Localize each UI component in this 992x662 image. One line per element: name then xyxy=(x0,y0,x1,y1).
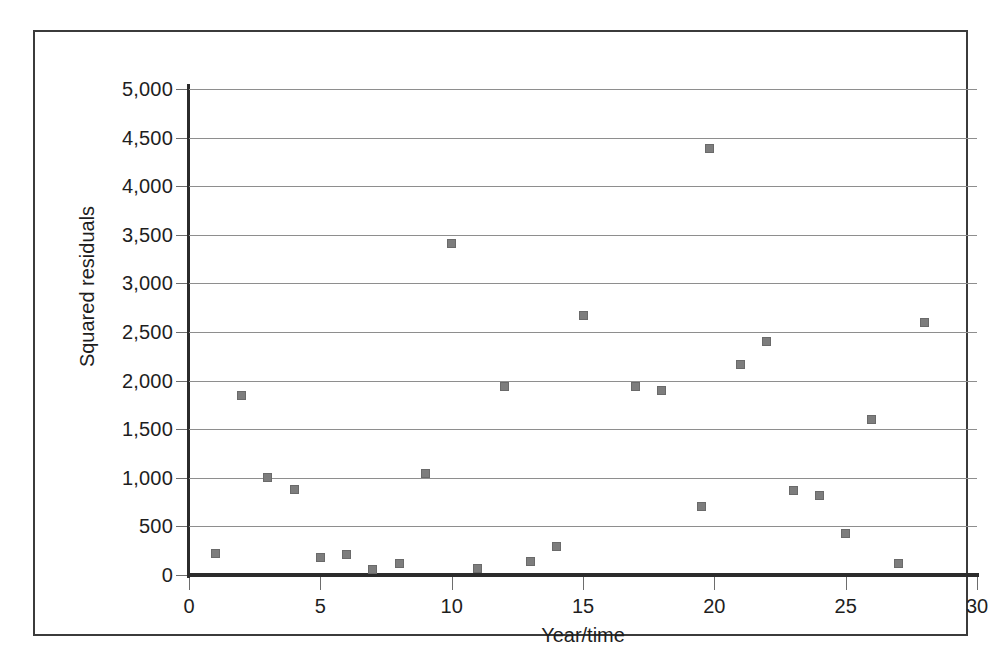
x-axis-tick xyxy=(846,577,847,590)
scatter-point xyxy=(368,565,377,574)
x-axis-tick xyxy=(977,577,978,590)
y-axis-tick-label: 2,000 xyxy=(83,370,173,393)
y-axis-tick-label: 0 xyxy=(83,564,173,587)
y-axis-tick-label: 3,500 xyxy=(83,224,173,247)
x-axis-tick xyxy=(320,577,321,590)
gridline-horizontal xyxy=(189,332,977,333)
scatter-point xyxy=(697,502,706,511)
y-axis-tick-label: 500 xyxy=(83,515,173,538)
y-axis-tick-label: 5,000 xyxy=(83,78,173,101)
gridline-horizontal xyxy=(189,526,977,527)
scatter-point xyxy=(762,337,771,346)
gridline-horizontal xyxy=(189,283,977,284)
plot-area xyxy=(189,89,977,575)
scatter-point xyxy=(316,553,325,562)
scatter-point xyxy=(894,559,903,568)
y-axis-tick-label: 3,000 xyxy=(83,272,173,295)
x-axis-tick-label: 0 xyxy=(149,595,229,618)
y-axis-tick-label: 4,500 xyxy=(83,127,173,150)
gridline-horizontal xyxy=(189,381,977,382)
scatter-point xyxy=(920,318,929,327)
scatter-point xyxy=(290,485,299,494)
scatter-point xyxy=(237,391,246,400)
scatter-point xyxy=(631,382,640,391)
x-axis-title: Year/time xyxy=(189,624,977,647)
scatter-point xyxy=(473,564,482,573)
x-axis-tick xyxy=(583,577,584,590)
scatter-point xyxy=(500,382,509,391)
x-axis-tick-label: 5 xyxy=(280,595,360,618)
y-axis-tick-label: 1,000 xyxy=(83,467,173,490)
scatter-point xyxy=(815,491,824,500)
scatter-point xyxy=(421,469,430,478)
scatter-point xyxy=(841,529,850,538)
x-axis-tick xyxy=(452,577,453,590)
y-axis-tick-label: 4,000 xyxy=(83,175,173,198)
x-axis-tick-label: 15 xyxy=(543,595,623,618)
x-axis-tick xyxy=(189,577,190,590)
x-axis-tick-label: 10 xyxy=(412,595,492,618)
gridline-horizontal xyxy=(189,235,977,236)
scatter-point xyxy=(789,486,798,495)
scatter-point xyxy=(211,549,220,558)
scatter-point xyxy=(736,360,745,369)
scatter-point xyxy=(552,542,561,551)
x-axis-tick-label: 25 xyxy=(806,595,886,618)
scatter-point xyxy=(705,144,714,153)
scatter-point xyxy=(657,386,666,395)
gridline-horizontal xyxy=(189,186,977,187)
x-axis-tick-label: 30 xyxy=(937,595,992,618)
x-axis-tick xyxy=(714,577,715,590)
scatter-point xyxy=(342,550,351,559)
x-axis-tick-label: 20 xyxy=(674,595,754,618)
scatter-point xyxy=(395,559,404,568)
scatter-point xyxy=(579,311,588,320)
y-axis-tick-label: 2,500 xyxy=(83,321,173,344)
scatter-point xyxy=(447,239,456,248)
y-axis-tick-label: 1,500 xyxy=(83,418,173,441)
figure-frame: Squared residuals Year/time 05001,0001,5… xyxy=(33,30,968,636)
gridline-horizontal xyxy=(189,89,977,90)
scatter-point xyxy=(526,557,535,566)
scatter-point xyxy=(263,473,272,482)
gridline-horizontal xyxy=(189,429,977,430)
gridline-horizontal xyxy=(189,138,977,139)
scatter-point xyxy=(867,415,876,424)
gridline-horizontal xyxy=(189,478,977,479)
